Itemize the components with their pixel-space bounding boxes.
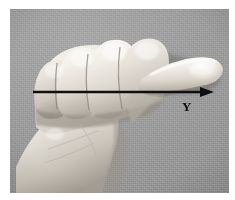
photo-vignette <box>10 9 229 193</box>
photograph: Y <box>10 9 229 193</box>
figure-canvas: Y <box>0 0 235 200</box>
